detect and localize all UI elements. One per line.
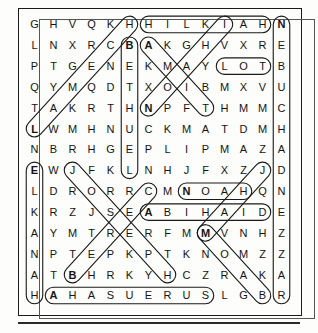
grid-cell: M: [158, 181, 177, 202]
grid-cell: A: [272, 264, 291, 285]
grid-cell: A: [25, 223, 44, 244]
grid-cell: J: [177, 160, 196, 181]
grid-cell: E: [272, 35, 291, 56]
grid-cell: H: [63, 285, 82, 306]
grid-cell: I: [234, 202, 253, 223]
grid-cell: K: [101, 14, 120, 35]
grid-cell: X: [234, 77, 253, 98]
grid-cell: O: [196, 181, 215, 202]
grid-cell: H: [253, 223, 272, 244]
grid-cell: G: [101, 139, 120, 160]
grid-cell: M: [158, 56, 177, 77]
grid-cell: Q: [253, 181, 272, 202]
grid-cell: B: [272, 56, 291, 77]
grid-cell: H: [44, 14, 63, 35]
grid-cell: T: [63, 243, 82, 264]
grid-cell: C: [177, 264, 196, 285]
grid-cell: P: [44, 243, 63, 264]
grid-cell: P: [25, 56, 44, 77]
grid-cell: B: [253, 285, 272, 306]
grid-cell: N: [25, 243, 44, 264]
grid-cell: L: [215, 285, 234, 306]
grid-cell: N: [44, 35, 63, 56]
grid-cell: M: [177, 223, 196, 244]
grid-cell: K: [158, 35, 177, 56]
grid-cell: M: [253, 118, 272, 139]
grid-cell: D: [272, 160, 291, 181]
grid-cell: W: [44, 118, 63, 139]
grid-cell: Z: [272, 223, 291, 244]
grid-cell: T: [253, 56, 272, 77]
grid-cell: N: [177, 181, 196, 202]
grid-cell: H: [82, 118, 101, 139]
grid-cell: H: [253, 14, 272, 35]
grid-cell: X: [139, 77, 158, 98]
grid-cell: K: [139, 56, 158, 77]
grid-cell: H: [196, 202, 215, 223]
grid-cell: L: [120, 160, 139, 181]
grid-cell: O: [234, 56, 253, 77]
grid-cell: L: [177, 14, 196, 35]
grid-cell: H: [215, 97, 234, 118]
grid-cell: E: [120, 202, 139, 223]
grid-cell: Q: [25, 77, 44, 98]
grid-cell: D: [101, 77, 120, 98]
grid-cell: Y: [44, 223, 63, 244]
grid-cell: C: [139, 118, 158, 139]
grid-cell: N: [234, 223, 253, 244]
grid-cell: H: [234, 181, 253, 202]
grid-cell: C: [101, 35, 120, 56]
grid-cell: J: [63, 160, 82, 181]
grid-cell: G: [63, 56, 82, 77]
grid-cell: B: [196, 77, 215, 98]
grid-cell: I: [215, 14, 234, 35]
grid-cell: H: [196, 35, 215, 56]
grid-cell: A: [25, 264, 44, 285]
grid-cell: A: [82, 285, 101, 306]
grid-cell: T: [44, 56, 63, 77]
grid-cell: E: [120, 139, 139, 160]
grid-cell: U: [177, 285, 196, 306]
grid-cell: R: [120, 181, 139, 202]
grid-cell: H: [120, 14, 139, 35]
grid-cell: M: [177, 118, 196, 139]
grid-cell: H: [25, 285, 44, 306]
grid-cell: M: [196, 223, 215, 244]
grid-cell: Z: [253, 139, 272, 160]
grid-cell: Q: [82, 77, 101, 98]
grid-cell: A: [234, 139, 253, 160]
grid-cell: W: [44, 160, 63, 181]
grid-cell: R: [63, 181, 82, 202]
grid-cell: L: [25, 118, 44, 139]
grid-cell: P: [196, 139, 215, 160]
grid-cell: R: [63, 139, 82, 160]
grid-cell: E: [272, 202, 291, 223]
bottom-rule: [18, 322, 300, 324]
grid-cell: S: [196, 285, 215, 306]
grid-cell: H: [158, 160, 177, 181]
grid-cell: N: [101, 56, 120, 77]
letter-grid: GHVQKHHILKIAHNLNXRCBAKGHVXREPTGENEKMAYLO…: [25, 14, 291, 306]
grid-cell: H: [120, 97, 139, 118]
grid-cell: R: [158, 285, 177, 306]
grid-cell: F: [82, 160, 101, 181]
grid-cell: N: [25, 139, 44, 160]
grid-cell: A: [272, 139, 291, 160]
grid-cell: A: [44, 285, 63, 306]
grid-cell: H: [158, 264, 177, 285]
grid-cell: P: [139, 139, 158, 160]
grid-cell: V: [215, 223, 234, 244]
grid-cell: E: [82, 56, 101, 77]
grid-cell: H: [272, 118, 291, 139]
grid-cell: K: [120, 243, 139, 264]
grid-cell: K: [63, 97, 82, 118]
grid-cell: B: [44, 139, 63, 160]
grid-cell: Z: [196, 264, 215, 285]
grid-cell: T: [44, 264, 63, 285]
grid-cell: M: [253, 97, 272, 118]
grid-cell: M: [63, 118, 82, 139]
grid-cell: K: [25, 202, 44, 223]
grid-cell: H: [82, 139, 101, 160]
grid-cell: R: [139, 223, 158, 244]
grid-cell: B: [120, 35, 139, 56]
